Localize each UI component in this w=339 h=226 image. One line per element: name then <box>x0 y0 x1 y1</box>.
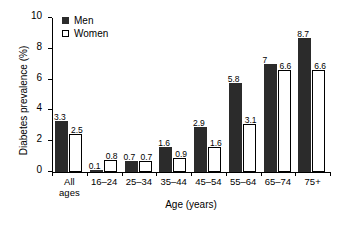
bar-value-label: 2.5 <box>71 125 83 135</box>
legend: MenWomen <box>62 14 108 40</box>
bar-women: 0.7 <box>139 161 152 172</box>
bar-men: 5.8 <box>229 83 242 172</box>
bar-group: 0.70.7 <box>122 18 157 172</box>
legend-swatch-men-icon <box>62 17 69 24</box>
bar-women: 6.6 <box>278 70 291 172</box>
y-tick-label: 8 <box>36 41 42 52</box>
bar-value-label: 0.1 <box>89 161 101 171</box>
x-category-label: Allages <box>52 176 87 198</box>
bar-group: 1.60.9 <box>156 18 191 172</box>
bar-group: 3.32.5 <box>52 18 87 172</box>
x-category-line: 45–54 <box>191 176 226 187</box>
bar-value-label: 5.8 <box>228 74 240 84</box>
bar-women: 2.5 <box>69 134 82 173</box>
bar-value-label: 0.8 <box>106 151 118 161</box>
x-category-line: 16–24 <box>87 176 122 187</box>
bar-value-label: 6.6 <box>280 61 292 71</box>
bar-group: 76.6 <box>261 18 296 172</box>
bar-value-label: 1.6 <box>210 138 222 148</box>
legend-swatch-women-icon <box>62 30 69 37</box>
x-category-label: 45–54 <box>191 176 226 187</box>
bar-value-label: 0.7 <box>124 152 136 162</box>
bar-value-label: 0.7 <box>141 152 153 162</box>
bar-group: 2.91.6 <box>191 18 226 172</box>
bar-group: 0.10.8 <box>87 18 122 172</box>
bar-women: 3.1 <box>243 124 256 172</box>
legend-item: Men <box>62 14 108 27</box>
plot-area: 0246810 3.32.50.10.80.70.71.60.92.91.65.… <box>52 18 330 172</box>
y-tick-label: 2 <box>36 133 42 144</box>
bar-men: 0.1 <box>90 170 103 172</box>
x-category-label: 16–24 <box>87 176 122 187</box>
bar-value-label: 1.6 <box>158 138 170 148</box>
x-axis-title: Age (years) <box>52 199 330 210</box>
x-category-line: 75+ <box>295 176 330 187</box>
bar-value-label: 6.6 <box>314 61 326 71</box>
legend-item-label: Women <box>74 27 108 40</box>
x-category-line: 35–44 <box>156 176 191 187</box>
bar-group: 8.76.6 <box>295 18 330 172</box>
bar-men: 8.7 <box>298 38 311 172</box>
x-category-label: 35–44 <box>156 176 191 187</box>
y-tick-label: 6 <box>36 72 42 83</box>
x-category-label: 65–74 <box>261 176 296 187</box>
x-category-label: 25–34 <box>122 176 157 187</box>
x-category-line: All <box>52 176 87 187</box>
bar-value-label: 3.1 <box>245 115 257 125</box>
y-tick-label: 10 <box>31 10 42 21</box>
legend-item-label: Men <box>74 14 93 27</box>
x-category-line: 55–64 <box>226 176 261 187</box>
x-category-line: 25–34 <box>122 176 157 187</box>
bar-women: 6.6 <box>312 70 325 172</box>
diabetes-prevalence-bar-chart: Diabetes prevalence (%) 0246810 3.32.50.… <box>0 0 339 226</box>
bar-value-label: 0.9 <box>175 149 187 159</box>
x-category-line: ages <box>52 187 87 198</box>
y-tick-label: 4 <box>36 102 42 113</box>
legend-item: Women <box>62 27 108 40</box>
y-tick-label: 0 <box>36 164 42 175</box>
x-tick <box>330 172 331 176</box>
bar-men: 0.7 <box>125 161 138 172</box>
x-category-label: 75+ <box>295 176 330 187</box>
bar-men: 2.9 <box>194 127 207 172</box>
bar-group: 5.83.1 <box>226 18 261 172</box>
bar-women: 0.8 <box>104 160 117 172</box>
bar-men: 3.3 <box>55 121 68 172</box>
y-axis-title: Diabetes prevalence (%) <box>18 21 29 181</box>
bar-value-label: 8.7 <box>297 29 309 39</box>
bar-value-label: 3.3 <box>54 112 66 122</box>
bar-value-label: 7 <box>263 55 268 65</box>
x-category-line: 65–74 <box>261 176 296 187</box>
bar-men: 1.6 <box>159 147 172 172</box>
bar-women: 1.6 <box>208 147 221 172</box>
x-category-label: 55–64 <box>226 176 261 187</box>
bar-women: 0.9 <box>173 158 186 172</box>
bar-men: 7 <box>264 64 277 172</box>
bar-value-label: 2.9 <box>193 118 205 128</box>
